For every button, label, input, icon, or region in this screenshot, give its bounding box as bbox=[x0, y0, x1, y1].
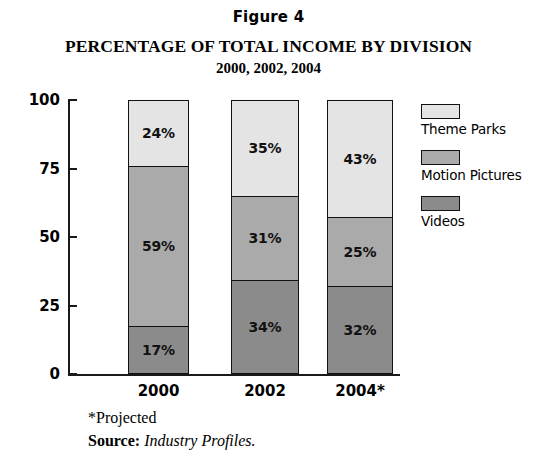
source-line: Source: Industry Profiles. bbox=[88, 430, 256, 452]
bar-segment: 43% bbox=[328, 101, 392, 217]
bar-segment: 35% bbox=[232, 101, 298, 196]
segment-value-label: 34% bbox=[249, 319, 282, 335]
legend-item: Theme Parks bbox=[421, 104, 537, 137]
x-axis-line bbox=[68, 374, 400, 376]
legend-label: Videos bbox=[421, 213, 537, 229]
legend-item: Motion Pictures bbox=[421, 150, 537, 183]
chart-title: PERCENTAGE OF TOTAL INCOME BY DIVISION bbox=[0, 36, 537, 57]
segment-value-label: 17% bbox=[142, 342, 175, 358]
x-axis-label: 2004* bbox=[327, 382, 393, 400]
legend-swatch bbox=[421, 104, 460, 119]
legend-swatch bbox=[421, 150, 460, 165]
source-prefix: Source: bbox=[88, 432, 140, 449]
segment-value-label: 35% bbox=[249, 140, 282, 156]
footnotes: *Projected Source: Industry Profiles. bbox=[88, 407, 256, 451]
legend: Theme ParksMotion PicturesVideos bbox=[421, 104, 537, 242]
x-axis-label: 2000 bbox=[128, 382, 189, 400]
bar-segment: 34% bbox=[232, 280, 298, 373]
bar-2000: 24%59%17% bbox=[128, 100, 189, 374]
segment-value-label: 59% bbox=[142, 238, 175, 254]
legend-swatch bbox=[421, 196, 460, 211]
y-tick-mark bbox=[68, 168, 77, 170]
segment-value-label: 25% bbox=[344, 244, 377, 260]
segment-value-label: 32% bbox=[344, 322, 377, 338]
legend-label: Motion Pictures bbox=[421, 167, 537, 183]
bar-segment: 17% bbox=[129, 326, 188, 373]
y-tick-label: 75 bbox=[39, 160, 60, 178]
y-tick-mark bbox=[68, 305, 77, 307]
legend-label: Theme Parks bbox=[421, 121, 537, 137]
segment-value-label: 31% bbox=[249, 230, 282, 246]
bar-segment: 59% bbox=[129, 166, 188, 326]
y-tick-label: 50 bbox=[39, 228, 60, 246]
y-axis-line bbox=[68, 100, 70, 376]
bar-segment: 32% bbox=[328, 286, 392, 373]
y-tick-label: 0 bbox=[50, 365, 60, 383]
y-tick-label: 100 bbox=[29, 91, 60, 109]
bar-segment: 25% bbox=[328, 217, 392, 286]
bar-2004: 43%25%32% bbox=[327, 100, 393, 374]
x-axis-label: 2002 bbox=[231, 382, 299, 400]
segment-value-label: 24% bbox=[142, 125, 175, 141]
y-tick-mark bbox=[68, 236, 77, 238]
y-tick-label: 25 bbox=[39, 297, 60, 315]
bar-2002: 35%31%34% bbox=[231, 100, 299, 374]
y-tick-mark bbox=[68, 99, 77, 101]
plot-area: 0255075100 24%59%17%35%31%34%43%25%32% bbox=[68, 100, 400, 376]
segment-value-label: 43% bbox=[344, 151, 377, 167]
legend-item: Videos bbox=[421, 196, 537, 229]
bar-segment: 24% bbox=[129, 101, 188, 166]
chart-subtitle: 2000, 2002, 2004 bbox=[0, 60, 537, 77]
figure-label: Figure 4 bbox=[0, 8, 537, 26]
footnote-projected: *Projected bbox=[88, 407, 256, 429]
source-name: Industry Profiles. bbox=[144, 432, 255, 449]
y-tick-mark bbox=[68, 373, 77, 375]
bar-segment: 31% bbox=[232, 196, 298, 281]
